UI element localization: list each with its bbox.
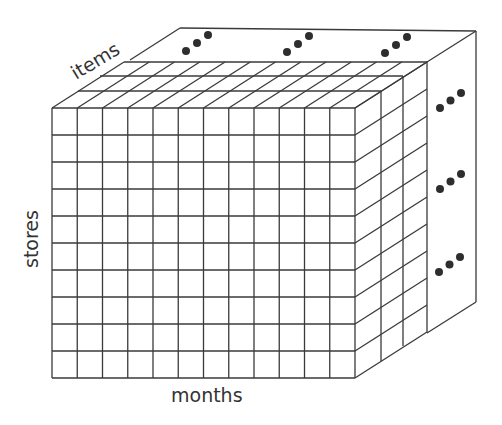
side-row-slant bbox=[355, 143, 427, 189]
ellipsis-dot-icon bbox=[456, 253, 464, 261]
ellipsis-dot-icon bbox=[182, 47, 190, 55]
ellipsis-dot-icon bbox=[436, 104, 444, 112]
side-row-slant bbox=[355, 332, 427, 378]
ellipsis-dot-icon bbox=[193, 39, 201, 47]
side-row-slant bbox=[355, 89, 427, 135]
ellipsis-dot-icon bbox=[392, 41, 400, 49]
ellipsis-dot-icon bbox=[305, 32, 313, 40]
stores-axis-label: stores bbox=[20, 210, 42, 268]
ellipsis-dot-icon bbox=[436, 185, 444, 193]
side-row-slant bbox=[355, 278, 427, 324]
ellipsis-dot-icon bbox=[403, 33, 411, 41]
ellipsis-dot-icon bbox=[435, 268, 443, 276]
side-row-slant bbox=[355, 251, 427, 297]
cube-grid bbox=[52, 62, 427, 378]
ellipsis-dot-icon bbox=[457, 89, 465, 97]
side-row-slant bbox=[355, 116, 427, 162]
ellipsis-markers bbox=[182, 31, 465, 276]
ellipsis-dot-icon bbox=[381, 49, 389, 57]
data-cube-diagram: items stores months bbox=[0, 0, 502, 425]
months-axis-label: months bbox=[171, 384, 243, 406]
ellipsis-dot-icon bbox=[447, 97, 455, 105]
ellipsis-dot-icon bbox=[283, 48, 291, 56]
ellipsis-dot-icon bbox=[446, 261, 454, 269]
ellipsis-dot-icon bbox=[204, 31, 212, 39]
side-row-slant bbox=[355, 305, 427, 351]
ellipsis-dot-icon bbox=[457, 170, 465, 178]
side-row-slant bbox=[355, 197, 427, 243]
ellipsis-dot-icon bbox=[447, 178, 455, 186]
ellipsis-dot-icon bbox=[294, 40, 302, 48]
side-row-slant bbox=[355, 170, 427, 216]
side-row-slant bbox=[355, 224, 427, 270]
